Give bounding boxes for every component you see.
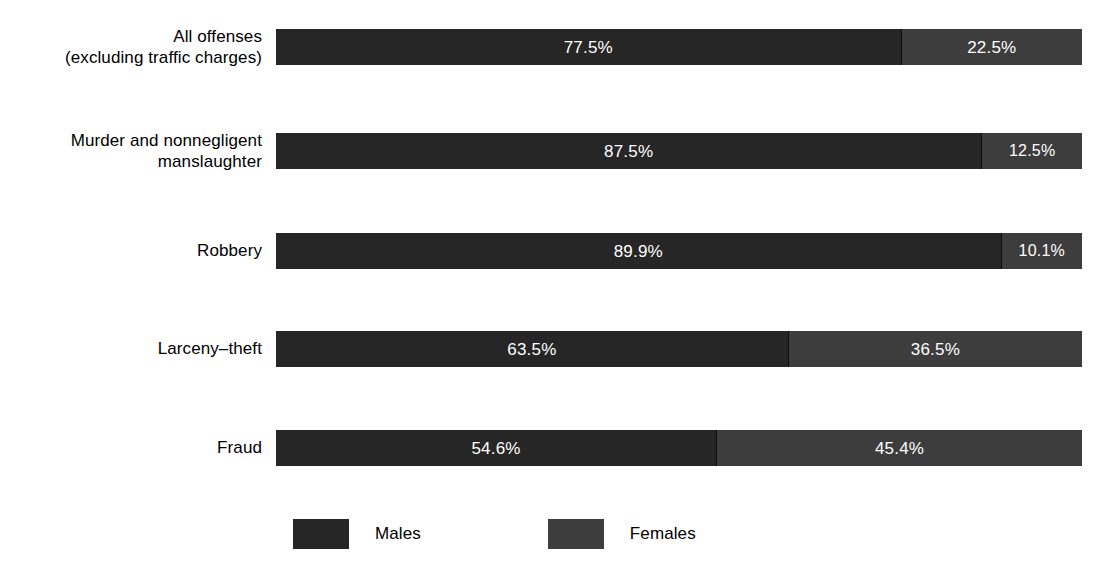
bar-segment-males: 89.9% — [276, 233, 1001, 269]
bar-row: Murder and nonnegligent manslaughter87.5… — [0, 133, 1095, 169]
bar-segment-value-females: 12.5% — [1009, 143, 1055, 159]
bar-segment-males: 63.5% — [276, 331, 788, 367]
bar-segment-value-females: 22.5% — [967, 39, 1016, 56]
bar-segment-value-males: 89.9% — [614, 243, 663, 260]
legend-item-females: Females — [548, 518, 696, 550]
bar-row-label: All offenses (excluding traffic charges) — [0, 26, 262, 68]
legend-label-males: Males — [375, 524, 421, 544]
bar-segment-value-males: 87.5% — [604, 143, 653, 160]
bar-segment-females: 22.5% — [901, 29, 1082, 65]
bar-track: 87.5%12.5% — [276, 133, 1082, 169]
bar-segment-value-females: 36.5% — [911, 341, 960, 358]
bar-segment-value-females: 10.1% — [1019, 243, 1065, 259]
legend-label-females: Females — [630, 524, 696, 544]
bar-segment-females: 12.5% — [981, 133, 1082, 169]
bar-segment-females: 45.4% — [716, 430, 1082, 466]
bar-segment-value-males: 63.5% — [507, 341, 556, 358]
bar-track: 89.9%10.1% — [276, 233, 1082, 269]
bar-segment-males: 54.6% — [276, 430, 716, 466]
bar-row: All offenses (excluding traffic charges)… — [0, 29, 1095, 65]
legend-item-males: Males — [293, 518, 421, 550]
bar-row-label: Murder and nonnegligent manslaughter — [0, 130, 262, 172]
bar-row: Robbery89.9%10.1% — [0, 233, 1095, 269]
bar-segment-males: 87.5% — [276, 133, 981, 169]
bar-segment-value-males: 77.5% — [564, 39, 613, 56]
bar-segment-males: 77.5% — [276, 29, 901, 65]
bar-track: 54.6%45.4% — [276, 430, 1082, 466]
bar-row: Larceny–theft63.5%36.5% — [0, 331, 1095, 367]
bar-row: Fraud54.6%45.4% — [0, 430, 1095, 466]
bar-segment-value-males: 54.6% — [471, 440, 520, 457]
chart-legend: Males Females — [293, 518, 696, 550]
legend-swatch-males-icon — [293, 519, 349, 549]
bar-row-label: Robbery — [0, 240, 262, 261]
bar-row-label: Fraud — [0, 437, 262, 458]
legend-swatch-females-icon — [548, 519, 604, 549]
stacked-bar-chart: All offenses (excluding traffic charges)… — [0, 0, 1095, 580]
bar-row-label: Larceny–theft — [0, 338, 262, 359]
bar-segment-females: 10.1% — [1001, 233, 1082, 269]
bar-segment-value-females: 45.4% — [875, 440, 924, 457]
bar-track: 63.5%36.5% — [276, 331, 1082, 367]
bar-segment-females: 36.5% — [788, 331, 1082, 367]
bar-track: 77.5%22.5% — [276, 29, 1082, 65]
